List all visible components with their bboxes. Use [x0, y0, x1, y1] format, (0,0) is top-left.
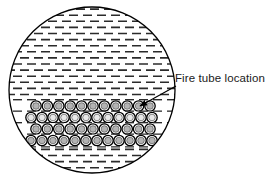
tube-row: [31, 124, 155, 134]
fire-tube-bore: [135, 126, 142, 133]
fire-tube-bore: [90, 103, 97, 110]
vessel-shell-fill: [9, 7, 175, 173]
fire-tube-bank: [0, 100, 190, 147]
fire-tube-bore: [124, 103, 131, 110]
fire-tube-bore: [147, 126, 154, 133]
tube-row: [31, 101, 155, 111]
fire-tube-bore: [105, 114, 112, 121]
fire-tube-bore: [44, 126, 51, 133]
fire-tube-bore: [56, 103, 63, 110]
fire-tube-bore: [33, 103, 40, 110]
fire-tube-bore: [50, 137, 57, 144]
fire-tube-bore: [56, 126, 63, 133]
fire-tube-bore: [44, 103, 51, 110]
fire-tube-bore: [67, 103, 74, 110]
fire-tube-bore: [116, 137, 123, 144]
fire-tube-bore: [61, 114, 68, 121]
fire-tube-bore: [39, 137, 46, 144]
fire-tube-bore: [33, 126, 40, 133]
fire-tube-bore: [113, 103, 120, 110]
fire-tube-bore: [94, 114, 101, 121]
fire-tube-bore: [50, 114, 57, 121]
fire-tube-bore: [94, 137, 101, 144]
fire-tube-bore: [78, 103, 85, 110]
fire-tube-bore: [90, 126, 97, 133]
fire-tube-bore: [116, 114, 123, 121]
fire-tube-bore: [39, 114, 46, 121]
fire-tube-bore: [124, 126, 131, 133]
fire-tube-bore: [127, 114, 134, 121]
fire-tube-bore: [138, 114, 145, 121]
fire-tube-bore: [83, 114, 90, 121]
fire-tube-bore: [72, 114, 79, 121]
fire-tube-bore: [78, 126, 85, 133]
fire-tube-bore: [101, 103, 108, 110]
fire-tube-bore: [149, 114, 156, 121]
figure-root: Fire tube location: [0, 0, 269, 181]
fire-tube-bore: [72, 137, 79, 144]
fire-tube-bore: [83, 137, 90, 144]
fire-tube-bore: [149, 137, 156, 144]
fire-tube-bore: [138, 137, 145, 144]
fire-tube-bore: [61, 137, 68, 144]
vessel-cross-section-diagram: Fire tube location: [0, 0, 269, 181]
fire-tube-bore: [113, 126, 120, 133]
fire-tube-bore: [127, 137, 134, 144]
fire-tube-bore: [28, 114, 35, 121]
fire-tube-bore: [101, 126, 108, 133]
fire-tube-location-label: Fire tube location: [175, 72, 265, 84]
fire-tube-bore: [147, 103, 154, 110]
fire-tube-bore: [105, 137, 112, 144]
fire-tube-bore: [67, 126, 74, 133]
